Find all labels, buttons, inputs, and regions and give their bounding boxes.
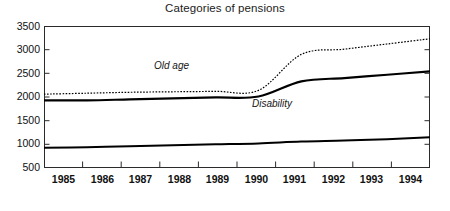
x-axis-tick-label: 1987 — [121, 174, 160, 185]
y-axis-tick-label: 1000 — [0, 138, 40, 149]
series-line-old-age — [44, 39, 430, 94]
y-axis-tick-label: 3500 — [0, 21, 40, 32]
plot-area: Old age Disability — [44, 26, 430, 168]
chart-title: Categories of pensions — [0, 2, 450, 14]
chart-figure: Categories of pensions 3500 3000 2500 20… — [0, 0, 450, 211]
y-axis-tick-label: 3000 — [0, 44, 40, 55]
plot-svg — [44, 26, 430, 168]
x-axis-tick-label: 1985 — [44, 174, 83, 185]
x-axis-tick-label: 1986 — [83, 174, 122, 185]
x-axis-tick-label: 1991 — [275, 174, 314, 185]
x-axis-tick-label: 1993 — [352, 174, 391, 185]
series-line-disability — [44, 71, 430, 100]
y-axis-tick-label: 2500 — [0, 68, 40, 79]
x-axis-tick-label: 1990 — [237, 174, 276, 185]
series-line-other — [44, 137, 430, 147]
y-axis-tick-label: 2000 — [0, 91, 40, 102]
series-annotation-old-age: Old age — [154, 60, 189, 71]
x-axis-tick-label: 1989 — [198, 174, 237, 185]
x-axis-tick-label: 1992 — [314, 174, 353, 185]
x-axis-tick-label: 1988 — [160, 174, 199, 185]
series-annotation-disability: Disability — [252, 98, 292, 109]
x-axis-ticks — [83, 162, 392, 168]
x-axis-tick-label: 1994 — [391, 174, 430, 185]
y-axis-tick-label: 500 — [0, 162, 40, 173]
y-axis-tick-label: 1500 — [0, 115, 40, 126]
